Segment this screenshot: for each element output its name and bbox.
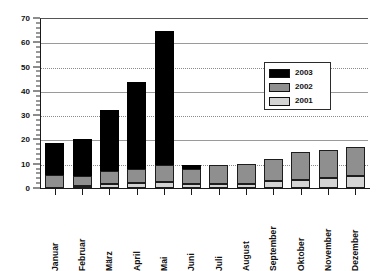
x-tick [355,188,356,195]
y-tick-label-30: 30 [21,111,30,120]
bar-segment-2002 [155,165,174,182]
x-label-text: September [268,226,278,271]
bar-chart: 010203040506070 JanuarFebruarMärzAprilMa… [0,0,384,271]
y-tick-label-20: 20 [21,135,30,144]
x-tick [137,188,138,195]
bar-group [127,18,146,188]
bar-segment-2002 [100,171,119,184]
bar-segment-2002 [182,169,201,185]
legend-label-2002: 2002 [295,83,313,91]
bar-group [209,18,228,188]
bar-group [100,18,119,188]
bar-segment-2002 [291,152,310,180]
y-tick-major-20 [33,139,40,140]
bar-segment-2002 [237,164,256,185]
x-label-text: Februar [77,239,87,271]
bar-segment-2003 [73,139,92,175]
x-label-text: Januar [50,243,60,271]
x-tick [191,188,192,195]
legend-swatch-2002 [269,83,290,92]
bar-segment-2002 [319,150,338,178]
x-tick [219,188,220,195]
legend-label-2001: 2001 [295,97,313,105]
x-label-text: Mai [159,257,169,271]
bar-segment-2002 [264,159,283,181]
y-tick-label-70: 70 [21,14,30,23]
bar-group [155,18,174,188]
bar-segment-2001 [346,176,365,188]
bar-segment-2002 [346,147,365,176]
y-axis: 010203040506070 [0,0,40,271]
y-tick-major-40 [33,90,40,91]
bar-group [346,18,365,188]
y-tick-major-30 [33,115,40,116]
bar-segment-2003 [182,165,201,169]
x-label-text: Juni [186,253,196,271]
x-tick [82,188,83,195]
y-tick-label-10: 10 [21,159,30,168]
bar-segment-2002 [45,175,64,188]
y-tick-label-60: 60 [21,38,30,47]
x-label-text: April [132,251,142,271]
bar-segment-2001 [264,181,283,188]
x-label-text: März [104,251,114,271]
x-label-text: Dezember [350,230,360,271]
x-tick [55,188,56,195]
x-tick [164,188,165,195]
bar-segment-2002 [209,165,228,184]
bar-segment-2003 [155,31,174,165]
x-label-text: Oktober [296,238,306,271]
bar-group [237,18,256,188]
bar-segment-2002 [127,169,146,184]
bar-group [73,18,92,188]
bar-segment-2002 [73,176,92,186]
legend-swatch-2001 [269,97,290,106]
x-label-text: August [241,241,251,271]
legend-item: 2001 [269,94,326,108]
legend-swatch-2003 [269,69,290,78]
bar-segment-2003 [100,110,119,171]
x-tick [246,188,247,195]
legend-item: 2003 [269,66,326,80]
y-tick-major-0 [33,188,40,189]
x-tick [328,188,329,195]
x-tick [301,188,302,195]
chart-legend: 2003 2002 2001 [264,62,331,110]
legend-label-2003: 2003 [295,69,313,77]
x-tick [109,188,110,195]
y-tick-major-10 [33,163,40,164]
bar-segment-2003 [127,82,146,168]
y-tick-label-40: 40 [21,86,30,95]
y-tick-major-70 [33,18,40,19]
x-tick [273,188,274,195]
bar-group [45,18,64,188]
bar-segment-2003 [45,143,64,175]
x-axis-ticks [40,188,370,196]
legend-item: 2002 [269,80,326,94]
x-label-text: November [323,229,333,271]
y-tick-major-50 [33,66,40,67]
x-axis-labels: JanuarFebruarMärzAprilMaiJuniJuliAugustS… [40,200,370,271]
y-tick-major-60 [33,42,40,43]
bar-segment-2001 [291,180,310,189]
bar-group [182,18,201,188]
bar-segment-2001 [319,178,338,188]
y-tick-label-0: 0 [26,184,30,193]
y-tick-label-50: 50 [21,62,30,71]
x-label-text: Juli [214,256,224,271]
